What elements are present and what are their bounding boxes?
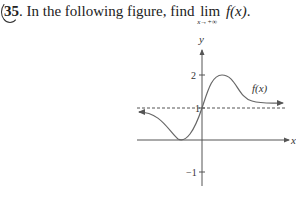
x-axis-label: x: [290, 134, 296, 146]
tick-2: 2: [191, 70, 196, 81]
y-axis-label: y: [198, 33, 204, 45]
tick-neg1: −1: [186, 167, 197, 178]
curve-label: f(x): [252, 82, 268, 95]
function-graph: x y 2 1 −1 f(x): [0, 0, 296, 205]
